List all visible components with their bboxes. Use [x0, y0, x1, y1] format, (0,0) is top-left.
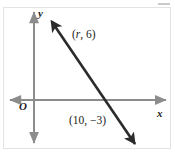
coordinate-plane-figure: y x O (r, 6) (10, −3) — [0, 0, 175, 153]
coordinate-plane-svg — [0, 0, 175, 153]
point-label-lower: (10, −3) — [69, 115, 106, 127]
y-axis-label: y — [38, 8, 43, 19]
point-label-upper: (r, 6) — [72, 29, 96, 41]
point-label-upper-rest: , 6) — [80, 28, 95, 40]
origin-label: O — [19, 101, 27, 112]
x-axis-label: x — [157, 108, 163, 119]
scan-artifact-mark — [158, 3, 170, 5]
